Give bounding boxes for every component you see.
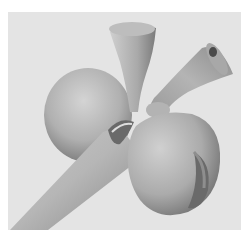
render-frame: ~~~~~ — [8, 12, 241, 230]
right-chamber — [128, 113, 220, 216]
3d-surface-render — [8, 12, 241, 230]
